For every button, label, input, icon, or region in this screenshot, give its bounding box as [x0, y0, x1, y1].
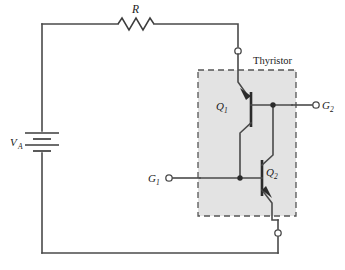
- resistor-symbol: [118, 18, 154, 30]
- q2-label: Q: [266, 166, 274, 178]
- q1-label: Q: [216, 100, 224, 112]
- circuit-diagram-figure: Thyristor V A R: [0, 0, 345, 270]
- q2-label-subscript: 2: [274, 172, 278, 181]
- source-label-subscript: A: [17, 142, 23, 151]
- cathode-terminal[interactable]: [275, 230, 281, 236]
- gate1-terminal[interactable]: [166, 175, 172, 181]
- thyristor-block-label: Thyristor: [253, 55, 293, 66]
- thyristor-block: [198, 70, 296, 216]
- gate2-terminal[interactable]: [313, 102, 319, 108]
- gate1-label: G: [148, 172, 156, 184]
- q1-label-subscript: 1: [224, 106, 228, 115]
- junction-gate2: [270, 102, 275, 107]
- gate2-label-subscript: 2: [330, 105, 334, 114]
- source-label: V: [10, 136, 18, 148]
- gate2-label: G: [322, 99, 330, 111]
- gate1-label-subscript: 1: [156, 178, 160, 187]
- wire-top-right: [154, 24, 238, 47]
- resistor-label: R: [131, 3, 139, 15]
- circuit-schematic-canvas: Thyristor V A R: [0, 0, 345, 270]
- junction-gate1: [237, 175, 242, 180]
